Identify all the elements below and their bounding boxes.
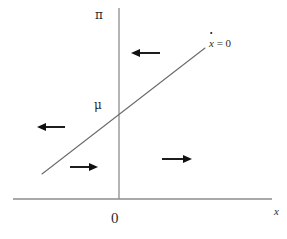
nullcline-variable: x bbox=[209, 38, 214, 49]
flow-arrow-upper-left bbox=[131, 49, 160, 57]
phase-diagram-figure: π μ 0 x x = 0 bbox=[0, 0, 287, 239]
threshold-label-mu: μ bbox=[94, 99, 102, 111]
nullcline-equation-rest: = 0 bbox=[214, 37, 231, 49]
flow-arrow-lower-left bbox=[70, 163, 98, 171]
origin-label: 0 bbox=[111, 211, 119, 226]
x-axis-label: x bbox=[274, 206, 279, 217]
y-axis-top-label: π bbox=[95, 9, 103, 21]
nullcline-label: x = 0 bbox=[209, 38, 231, 49]
flow-arrow-middle-left bbox=[37, 123, 65, 131]
nullcline-variable-text: x bbox=[209, 37, 214, 49]
overdot-icon bbox=[211, 32, 213, 34]
flow-arrow-lower-right bbox=[162, 155, 192, 163]
nullcline-line bbox=[42, 48, 205, 174]
diagram-canvas bbox=[0, 0, 287, 239]
